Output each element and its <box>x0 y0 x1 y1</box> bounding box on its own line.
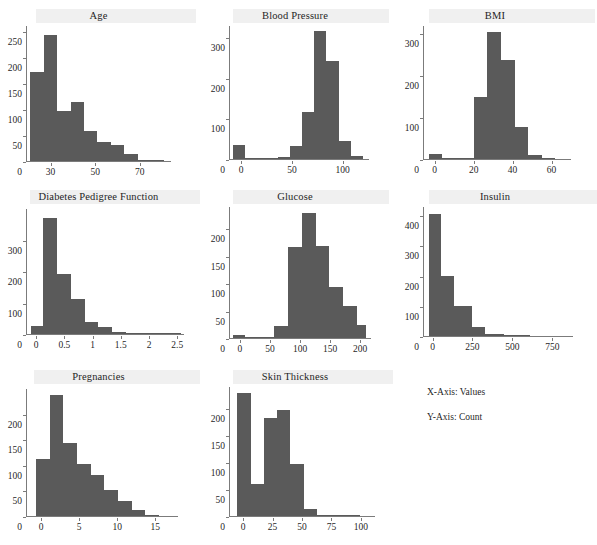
y-tick-label: 200 <box>211 414 229 424</box>
x-tick-label: 0 <box>34 340 39 350</box>
x-tick-label: 100 <box>354 522 368 532</box>
y-tick-label: 100 <box>8 115 26 125</box>
histogram-bar <box>317 515 331 516</box>
y-tick-mark <box>226 38 229 39</box>
x-tick-mark <box>79 518 80 521</box>
x-tick-label: 75 <box>327 522 337 532</box>
y-tick-mark <box>226 119 229 120</box>
plot-area: 010020030000.511.522.5 <box>26 209 184 335</box>
y-tick-mark <box>226 409 229 410</box>
plot-area: 0100200300050100 <box>229 26 369 160</box>
x-axis-line <box>229 516 375 517</box>
histogram-bar <box>63 443 77 516</box>
x-tick-label: 10 <box>112 522 122 532</box>
legend-cell <box>393 361 597 545</box>
y-tick-label: 300 <box>405 39 423 49</box>
y-axis-line <box>423 26 424 160</box>
x-tick-label: 2 <box>147 340 152 350</box>
y-tick-label: 100 <box>405 123 423 133</box>
histogram-bar <box>339 141 351 159</box>
axis-legend: X-Axis: Values Y-Axis: Count <box>427 388 485 437</box>
x-tick-mark <box>270 340 271 343</box>
y-tick-mark <box>226 312 229 313</box>
histogram-panel: Blood Pressure0100200300050100 <box>197 0 393 181</box>
histogram-panel: BMI01002003000204060 <box>393 0 597 181</box>
histogram-bar <box>442 158 460 159</box>
x-tick-mark <box>41 518 42 521</box>
y-axis-line <box>229 26 230 160</box>
histogram-bar <box>329 287 343 338</box>
plot-area: 01002003004000250500750 <box>423 207 573 337</box>
y-tick-label: 300 <box>405 251 423 261</box>
x-tick-mark <box>435 161 436 164</box>
x-tick-label: 5 <box>77 522 82 532</box>
y-tick-mark <box>420 277 423 278</box>
x-tick-mark <box>302 518 303 521</box>
histogram-bar <box>429 154 443 159</box>
y-tick-label: 300 <box>211 43 229 53</box>
histogram-bar <box>167 333 181 334</box>
x-tick-mark <box>117 518 118 521</box>
y-tick-mark <box>23 335 26 336</box>
y-tick-mark <box>23 304 26 305</box>
x-tick-mark <box>513 161 514 164</box>
x-tick-mark <box>552 338 553 341</box>
x-tick-mark <box>121 336 122 339</box>
histogram-bar <box>460 158 474 159</box>
y-tick-mark <box>23 491 26 492</box>
histogram-bar <box>485 334 504 336</box>
x-tick-label: 200 <box>353 344 367 354</box>
histogram-bar <box>145 515 159 516</box>
y-tick-mark <box>226 463 229 464</box>
y-tick-label: 50 <box>13 141 27 151</box>
y-tick-label: 0 <box>220 522 229 532</box>
histogram-bar-zero-bin <box>233 335 245 338</box>
histogram-bar <box>104 490 118 516</box>
y-tick-label: 200 <box>8 277 26 287</box>
y-tick-mark <box>226 517 229 518</box>
y-tick-mark <box>23 32 26 33</box>
x-tick-mark <box>51 163 52 166</box>
x-tick-label: 0 <box>39 522 44 532</box>
y-tick-label: 250 <box>8 37 26 47</box>
histogram-bar <box>528 155 542 159</box>
panel-title: Blood Pressure <box>197 10 393 21</box>
y-tick-mark <box>420 76 423 77</box>
y-tick-mark <box>23 241 26 242</box>
y-tick-mark <box>23 440 26 441</box>
x-tick-label: 0 <box>237 344 242 354</box>
x-tick-mark <box>36 336 37 339</box>
x-tick-label: 0.5 <box>58 340 70 350</box>
y-tick-label: 200 <box>405 282 423 292</box>
histogram-bar <box>140 333 154 334</box>
histogram-bar <box>85 322 99 334</box>
histogram-panel: Skin Thickness0501001502000255075100 <box>197 361 393 545</box>
y-tick-mark <box>23 110 26 111</box>
histogram-bar <box>487 32 501 159</box>
x-tick-label: 100 <box>293 344 307 354</box>
panel-title: Skin Thickness <box>197 371 393 382</box>
y-axis-line <box>229 207 230 339</box>
y-tick-label: 0 <box>220 165 229 175</box>
histogram-bar <box>304 509 317 516</box>
y-tick-label: 100 <box>8 309 26 319</box>
y-tick-mark <box>23 84 26 85</box>
y-tick-label: 150 <box>8 445 26 455</box>
histogram-bar <box>71 299 85 334</box>
histogram-bar <box>316 246 330 338</box>
histogram-bar <box>50 395 64 516</box>
panel-title: Diabetes Pedigree Function <box>0 191 197 202</box>
histogram-bar <box>472 327 485 336</box>
x-tick-label: 2.5 <box>171 340 183 350</box>
histogram-bar <box>84 131 97 161</box>
panel-title: Insulin <box>393 191 597 202</box>
x-tick-label: 150 <box>323 344 337 354</box>
x-tick-mark <box>331 518 332 521</box>
plot-area: 01002003000204060 <box>423 26 571 160</box>
y-tick-label: 100 <box>8 471 26 481</box>
y-tick-label: 200 <box>211 234 229 244</box>
panel-title: BMI <box>393 10 597 21</box>
plot-area: 050100150200250305070 <box>26 26 171 162</box>
x-axis-line <box>229 338 371 339</box>
histogram-bar <box>264 418 277 516</box>
